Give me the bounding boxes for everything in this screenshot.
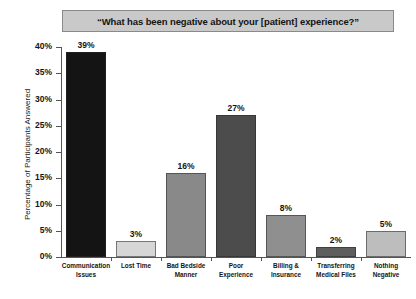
y-axis-tick-label: 20% (35, 146, 52, 156)
bar[interactable] (216, 115, 256, 257)
x-axis-category-label: Billing &Insurance (261, 262, 311, 279)
bar[interactable] (316, 247, 356, 258)
x-axis-tick-mark (311, 257, 312, 261)
x-axis-category-label-line: Negative (361, 271, 411, 280)
bar-group[interactable]: 3% (116, 47, 156, 257)
bar[interactable] (166, 173, 206, 257)
bar-value-label: 3% (116, 229, 156, 239)
x-axis-tick-mark (161, 257, 162, 261)
bar[interactable] (66, 52, 106, 257)
x-axis-category-label: CommunicationIssues (61, 262, 111, 279)
x-axis-category-label-line: Bad Bedside (161, 262, 211, 271)
y-axis-tick-label: 25% (35, 120, 52, 130)
bar-group[interactable]: 2% (316, 47, 356, 257)
chart-title: “What has been negative about your [pati… (97, 16, 359, 27)
y-axis-tick-label: 40% (35, 41, 52, 51)
bars-layer: 39%3%16%27%8%2%5% (61, 47, 411, 257)
x-axis-category-label: PoorExperience (211, 262, 261, 279)
x-axis-category-label-line: Issues (61, 271, 111, 280)
bar-value-label: 8% (266, 203, 306, 213)
x-axis-category-label: Bad BedsideManner (161, 262, 211, 279)
x-axis-category-label-line: Nothing (361, 262, 411, 271)
bar-group[interactable]: 16% (166, 47, 206, 257)
bar-value-label: 16% (166, 161, 206, 171)
x-axis-category-label-line: Medical Files (311, 271, 361, 280)
bar-group[interactable]: 27% (216, 47, 256, 257)
x-axis-category-label-line: Transferring (311, 262, 361, 271)
x-axis-line (61, 257, 411, 258)
x-axis-tick-mark (211, 257, 212, 261)
bar-value-label: 27% (216, 103, 256, 113)
x-axis-category-label-line: Communication (61, 262, 111, 271)
x-axis-category-label-line: Manner (161, 271, 211, 280)
x-axis-tick-mark (111, 257, 112, 261)
y-axis-tick-label: 5% (40, 225, 52, 235)
y-axis-tick-mark (56, 257, 61, 258)
x-axis-category-labels: CommunicationIssuesLost TimeBad BedsideM… (61, 262, 411, 296)
bar-group[interactable]: 8% (266, 47, 306, 257)
x-axis-category-label: Lost Time (111, 262, 161, 271)
y-axis-tick-label: 0% (40, 251, 52, 261)
bar[interactable] (266, 215, 306, 257)
bar-chart: “What has been negative about your [pati… (0, 0, 416, 299)
y-axis-tick-label: 35% (35, 67, 52, 77)
x-axis-category-label-line: Billing & (261, 262, 311, 271)
bar-value-label: 5% (366, 219, 406, 229)
chart-title-box: “What has been negative about your [pati… (62, 10, 394, 32)
y-axis-title: Percentage of Participants Answered (23, 50, 32, 260)
x-axis-category-label: NothingNegative (361, 262, 411, 279)
x-axis-category-label: TransferringMedical Files (311, 262, 361, 279)
x-axis-tick-mark (361, 257, 362, 261)
x-axis-category-label-line: Lost Time (111, 262, 161, 271)
bar-value-label: 2% (316, 235, 356, 245)
y-axis-tick-label: 15% (35, 172, 52, 182)
y-axis-tick-label: 10% (35, 199, 52, 209)
bar-group[interactable]: 5% (366, 47, 406, 257)
bar[interactable] (116, 241, 156, 257)
bar-group[interactable]: 39% (66, 47, 106, 257)
bar[interactable] (366, 231, 406, 257)
bar-value-label: 39% (66, 40, 106, 50)
x-axis-tick-mark (261, 257, 262, 261)
y-axis-tick-label: 30% (35, 94, 52, 104)
x-axis-category-label-line: Experience (211, 271, 261, 280)
x-axis-category-label-line: Poor (211, 262, 261, 271)
x-axis-category-label-line: Insurance (261, 271, 311, 280)
